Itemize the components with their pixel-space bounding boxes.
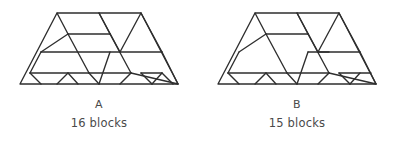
tiling-edge [329, 73, 376, 84]
tiling-edge [162, 52, 178, 84]
figure-a: A 16 blocks [0, 0, 198, 143]
tiling-edge [255, 13, 266, 34]
tiling-edge [68, 73, 78, 84]
tiling-edge [297, 52, 308, 84]
tiling-edge [141, 13, 162, 52]
figure-a-block-count: 16 blocks [0, 117, 198, 130]
tiling-edge [339, 13, 360, 52]
tiling-edge [89, 73, 99, 84]
tiling-edge [99, 52, 110, 84]
tiling-edge [228, 73, 239, 84]
tiling-edge [318, 73, 329, 84]
tiling-edge [266, 34, 287, 73]
tiling-edge [255, 73, 266, 84]
figure-b: B 15 blocks [198, 0, 396, 143]
tiling-edge [287, 73, 297, 84]
tiling-edge [297, 13, 318, 52]
tiling-edge [360, 52, 376, 84]
tiling-edge [99, 13, 120, 52]
tiling-edge [266, 73, 276, 84]
tiling-edge [57, 73, 68, 84]
figure-a-tiling [0, 2, 198, 96]
tiling-edge [318, 13, 339, 52]
tiling-edge [68, 34, 89, 73]
tiling-edge [30, 73, 41, 84]
figure-a-letter: A [0, 98, 198, 111]
figure-b-tiling [198, 2, 396, 96]
tiling-edge [120, 73, 131, 84]
diagram-canvas: A 16 blocks B 15 blocks [0, 0, 397, 143]
tiling-edge [141, 73, 152, 84]
tiling-edge [120, 13, 141, 52]
figure-b-letter: B [198, 98, 396, 111]
tiling-edge [339, 73, 350, 84]
tiling-edge [57, 13, 68, 34]
tiling-edge [162, 73, 173, 84]
figure-b-block-count: 15 blocks [198, 117, 396, 130]
